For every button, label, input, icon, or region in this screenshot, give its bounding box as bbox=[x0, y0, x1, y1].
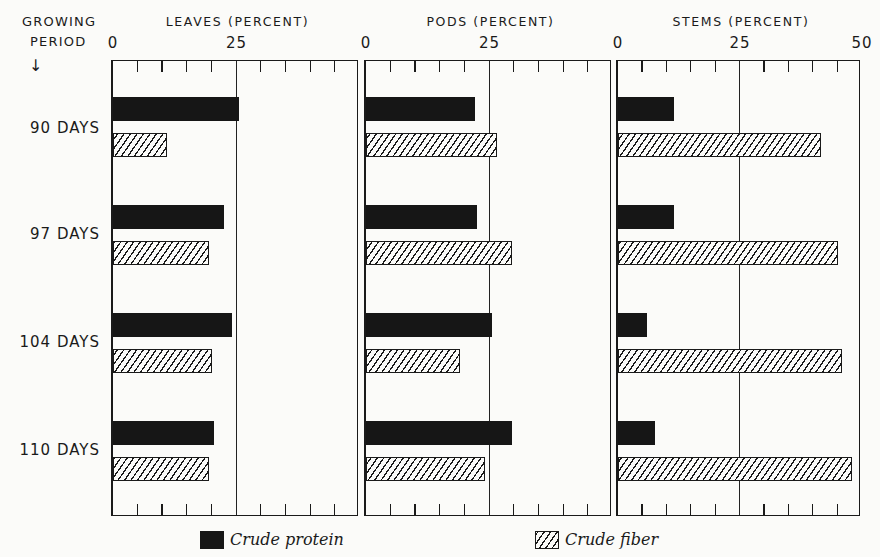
tick-label-leaves-25: 25 bbox=[226, 34, 247, 52]
panel-stems bbox=[616, 60, 860, 516]
axis-tick bbox=[310, 61, 311, 72]
chart-root: GROWING PERIOD ↓ 90 DAYS 97 DAYS 104 DAY… bbox=[0, 0, 880, 557]
reference-line-25 bbox=[236, 61, 237, 515]
axis-tick bbox=[563, 504, 564, 515]
axis-tick bbox=[538, 504, 539, 515]
row-label-104: 104 DAYS bbox=[0, 333, 100, 351]
tick-label-pods-0: 0 bbox=[361, 34, 372, 52]
panel-title-pods: PODS (PERCENT) bbox=[372, 14, 609, 29]
axis-tick bbox=[641, 61, 642, 72]
bar-pods-protein-90 bbox=[366, 97, 475, 121]
bar-stems-protein-97 bbox=[618, 205, 674, 229]
axis-tick bbox=[334, 504, 335, 515]
bar-leaves-fiber-97 bbox=[113, 241, 209, 265]
row-axis-header-line1: GROWING bbox=[22, 14, 96, 29]
axis-tick bbox=[439, 61, 440, 72]
row-label-90: 90 DAYS bbox=[0, 119, 100, 137]
axis-tick bbox=[837, 61, 838, 72]
axis-tick bbox=[414, 504, 415, 515]
axis-tick bbox=[763, 504, 764, 515]
bar-stems-fiber-110 bbox=[618, 457, 852, 481]
tick-label-pods-25: 25 bbox=[479, 34, 500, 52]
legend-item-protein: Crude protein bbox=[200, 530, 344, 549]
axis-tick bbox=[587, 61, 588, 72]
bar-pods-fiber-110 bbox=[366, 457, 485, 481]
axis-tick bbox=[812, 504, 813, 515]
tick-label-stems-50: 50 bbox=[851, 34, 872, 52]
axis-tick bbox=[161, 61, 162, 72]
tick-label-stems-0: 0 bbox=[613, 34, 624, 52]
bar-pods-fiber-97 bbox=[366, 241, 512, 265]
axis-tick bbox=[211, 61, 212, 72]
bar-leaves-fiber-110 bbox=[113, 457, 209, 481]
axis-tick bbox=[788, 61, 789, 72]
axis-tick bbox=[666, 61, 667, 72]
axis-tick bbox=[715, 61, 716, 72]
bar-stems-protein-110 bbox=[618, 421, 655, 445]
bar-stems-fiber-97 bbox=[618, 241, 838, 265]
bar-leaves-fiber-104 bbox=[113, 349, 212, 373]
axis-tick bbox=[715, 504, 716, 515]
axis-tick bbox=[563, 61, 564, 72]
panel-title-leaves: LEAVES (PERCENT) bbox=[119, 14, 356, 29]
axis-tick bbox=[812, 61, 813, 72]
axis-tick bbox=[690, 61, 691, 72]
legend-swatch-fiber bbox=[535, 531, 559, 549]
bar-stems-fiber-104 bbox=[618, 349, 842, 373]
axis-tick bbox=[788, 504, 789, 515]
legend-item-fiber: Crude fiber bbox=[535, 530, 658, 549]
axis-tick bbox=[161, 504, 162, 515]
axis-tick bbox=[690, 504, 691, 515]
row-label-97: 97 DAYS bbox=[0, 225, 100, 243]
panel-leaves bbox=[111, 60, 358, 516]
axis-tick bbox=[763, 61, 764, 72]
panel-title-stems: STEMS (PERCENT) bbox=[624, 14, 858, 29]
reference-line-25 bbox=[489, 61, 490, 515]
axis-tick bbox=[310, 504, 311, 515]
down-arrow-icon: ↓ bbox=[29, 56, 42, 75]
axis-tick bbox=[837, 504, 838, 515]
axis-tick bbox=[390, 504, 391, 515]
axis-tick bbox=[260, 61, 261, 72]
tick-label-leaves-0: 0 bbox=[108, 34, 119, 52]
axis-tick bbox=[641, 504, 642, 515]
legend-label-fiber: Crude fiber bbox=[565, 530, 658, 549]
bar-leaves-protein-97 bbox=[113, 205, 224, 229]
axis-tick bbox=[186, 504, 187, 515]
axis-tick bbox=[513, 61, 514, 72]
bar-stems-protein-90 bbox=[618, 97, 674, 121]
axis-tick bbox=[137, 61, 138, 72]
axis-tick bbox=[211, 504, 212, 515]
axis-tick bbox=[513, 504, 514, 515]
bar-pods-fiber-90 bbox=[366, 133, 497, 157]
bar-pods-protein-97 bbox=[366, 205, 477, 229]
bar-stems-protein-104 bbox=[618, 313, 647, 337]
bar-leaves-protein-110 bbox=[113, 421, 214, 445]
legend-swatch-protein bbox=[200, 531, 224, 549]
tick-label-stems-25: 25 bbox=[729, 34, 750, 52]
axis-tick bbox=[414, 61, 415, 72]
reference-line-25 bbox=[739, 61, 740, 515]
axis-tick bbox=[390, 61, 391, 72]
axis-tick bbox=[334, 61, 335, 72]
axis-tick bbox=[666, 504, 667, 515]
bar-pods-fiber-104 bbox=[366, 349, 460, 373]
axis-tick bbox=[285, 504, 286, 515]
bar-stems-fiber-90 bbox=[618, 133, 821, 157]
legend-label-protein: Crude protein bbox=[230, 530, 344, 549]
axis-tick bbox=[186, 61, 187, 72]
panel-pods bbox=[364, 60, 611, 516]
axis-tick bbox=[439, 504, 440, 515]
bar-pods-protein-104 bbox=[366, 313, 492, 337]
bar-leaves-fiber-90 bbox=[113, 133, 167, 157]
axis-tick bbox=[137, 504, 138, 515]
bar-leaves-protein-90 bbox=[113, 97, 239, 121]
bar-pods-protein-110 bbox=[366, 421, 512, 445]
axis-tick bbox=[285, 61, 286, 72]
axis-tick bbox=[464, 504, 465, 515]
axis-tick bbox=[538, 61, 539, 72]
axis-tick bbox=[587, 504, 588, 515]
row-axis-header-line2: PERIOD bbox=[30, 34, 86, 49]
axis-tick bbox=[464, 61, 465, 72]
row-label-110: 110 DAYS bbox=[0, 441, 100, 459]
